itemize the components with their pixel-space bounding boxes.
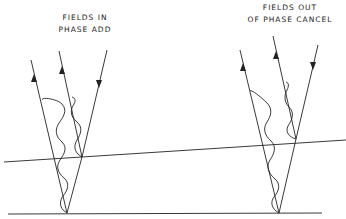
- substrate-surface: [8, 213, 322, 214]
- arrow-up-icon: [240, 63, 246, 71]
- thin-film-interference-diagram: [0, 0, 346, 219]
- arrow-up-icon: [273, 51, 279, 59]
- transmitted-ray-right: [279, 139, 296, 213]
- arrow-down-icon: [96, 80, 102, 88]
- arrow-up-icon: [31, 74, 37, 82]
- incident-ray-right: [296, 45, 318, 139]
- reflected-ray-bottom-left: [31, 60, 67, 213]
- transmitted-ray-left: [67, 157, 82, 213]
- wave-left-bottom: [42, 98, 67, 213]
- arrow-up-icon: [59, 66, 65, 74]
- reflected-ray-bottom-right: [240, 50, 279, 213]
- reflected-ray-top-right: [273, 36, 296, 139]
- incident-ray-left: [82, 50, 107, 157]
- arrow-down-icon: [310, 62, 316, 70]
